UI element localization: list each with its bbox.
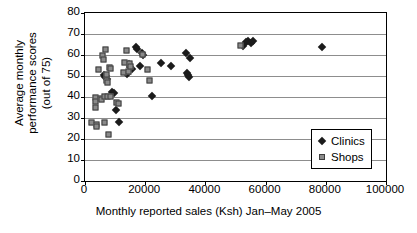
y-axis-title-line-1: Average monthly (13, 40, 27, 126)
y-axis-title-line-2: performance scores (26, 32, 40, 134)
legend-entry-clinics: Clinics (316, 133, 365, 149)
data-point-shops (121, 69, 127, 75)
y-axis-title-line-3: (out of 75) (40, 57, 54, 109)
data-point-clinics (185, 73, 193, 81)
y-tick-mark (81, 13, 85, 14)
data-point-clinics (249, 37, 257, 45)
legend-label-shops: Shops (331, 151, 364, 163)
data-point-shops (93, 99, 99, 105)
data-point-clinics (317, 42, 325, 50)
data-point-shops (94, 124, 100, 130)
x-tick-label: 0 (81, 184, 87, 196)
data-point-clinics (126, 62, 134, 70)
data-point-clinics (108, 88, 116, 96)
data-point-clinics (99, 71, 107, 79)
data-point-shops (126, 61, 132, 67)
data-point-shops (105, 131, 111, 137)
data-point-shops (95, 66, 101, 72)
data-point-shops (104, 80, 110, 86)
data-point-clinics (133, 44, 141, 52)
data-point-shops (147, 78, 153, 84)
y-tick-label: 70 (58, 27, 80, 39)
data-point-shops (100, 57, 106, 63)
data-point-clinics (242, 38, 250, 46)
y-axis-title: Average monthly performance scores (out … (13, 0, 53, 173)
scatter-chart: Average monthly performance scores (out … (0, 0, 417, 233)
y-tick-mark (81, 55, 85, 56)
data-point-clinics (247, 39, 255, 47)
y-tick-label: 50 (58, 69, 80, 81)
y-tick-label: 60 (58, 48, 80, 60)
diamond-icon (316, 138, 328, 144)
y-tick-mark (81, 34, 85, 35)
data-point-clinics (128, 64, 136, 72)
data-point-clinics (167, 61, 175, 69)
data-point-shops (94, 122, 100, 128)
data-point-shops (93, 104, 99, 110)
data-point-clinics (136, 61, 144, 69)
x-tick-label: 20000 (128, 184, 160, 196)
data-point-clinics (132, 42, 140, 50)
data-point-clinics (157, 59, 165, 67)
data-point-shops (102, 120, 108, 126)
x-axis-tick-labels: 020000400006000080000100000 (0, 184, 417, 200)
data-point-clinics (110, 89, 118, 97)
data-point-shops (106, 64, 112, 70)
data-point-shops (122, 60, 128, 66)
x-tick-label: 60000 (249, 184, 281, 196)
data-point-shops (144, 66, 150, 72)
gridline (85, 118, 386, 119)
data-point-shops (124, 47, 130, 53)
data-point-clinics (114, 118, 122, 126)
data-point-shops (114, 100, 120, 106)
gridline (85, 55, 386, 56)
y-tick-label: 20 (58, 132, 80, 144)
x-tick-label: 100000 (366, 184, 404, 196)
gridline (85, 34, 386, 35)
data-point-shops (107, 65, 113, 71)
data-point-clinics (125, 60, 133, 68)
y-tick-label: 30 (58, 111, 80, 123)
data-point-shops (104, 78, 110, 84)
legend-label-clinics: Clinics (331, 135, 365, 147)
y-tick-label: 80 (58, 6, 80, 18)
x-tick-label: 40000 (188, 184, 220, 196)
chart-legend: Clinics Shops (311, 129, 372, 169)
data-point-clinics (112, 105, 120, 113)
data-point-shops (116, 100, 122, 106)
data-point-clinics (238, 41, 246, 49)
y-tick-mark (81, 160, 85, 161)
gridline (85, 97, 386, 98)
gridline (85, 76, 386, 77)
x-axis-title: Monthly reported sales (Ksh) Jan–May 200… (0, 205, 417, 217)
data-point-shops (125, 68, 131, 74)
y-tick-label: 40 (58, 90, 80, 102)
data-point-shops (237, 42, 243, 48)
x-tick-label: 80000 (309, 184, 341, 196)
data-point-clinics (244, 37, 252, 45)
square-icon (316, 154, 328, 160)
y-tick-mark (81, 97, 85, 98)
data-point-shops (103, 46, 109, 52)
data-point-clinics (184, 71, 192, 79)
y-tick-label: 10 (58, 153, 80, 165)
data-point-shops (88, 120, 94, 126)
data-point-clinics (101, 73, 109, 81)
y-tick-mark (81, 139, 85, 140)
legend-entry-shops: Shops (316, 149, 365, 165)
y-tick-mark (81, 118, 85, 119)
data-point-shops (127, 63, 133, 69)
y-tick-mark (81, 76, 85, 77)
